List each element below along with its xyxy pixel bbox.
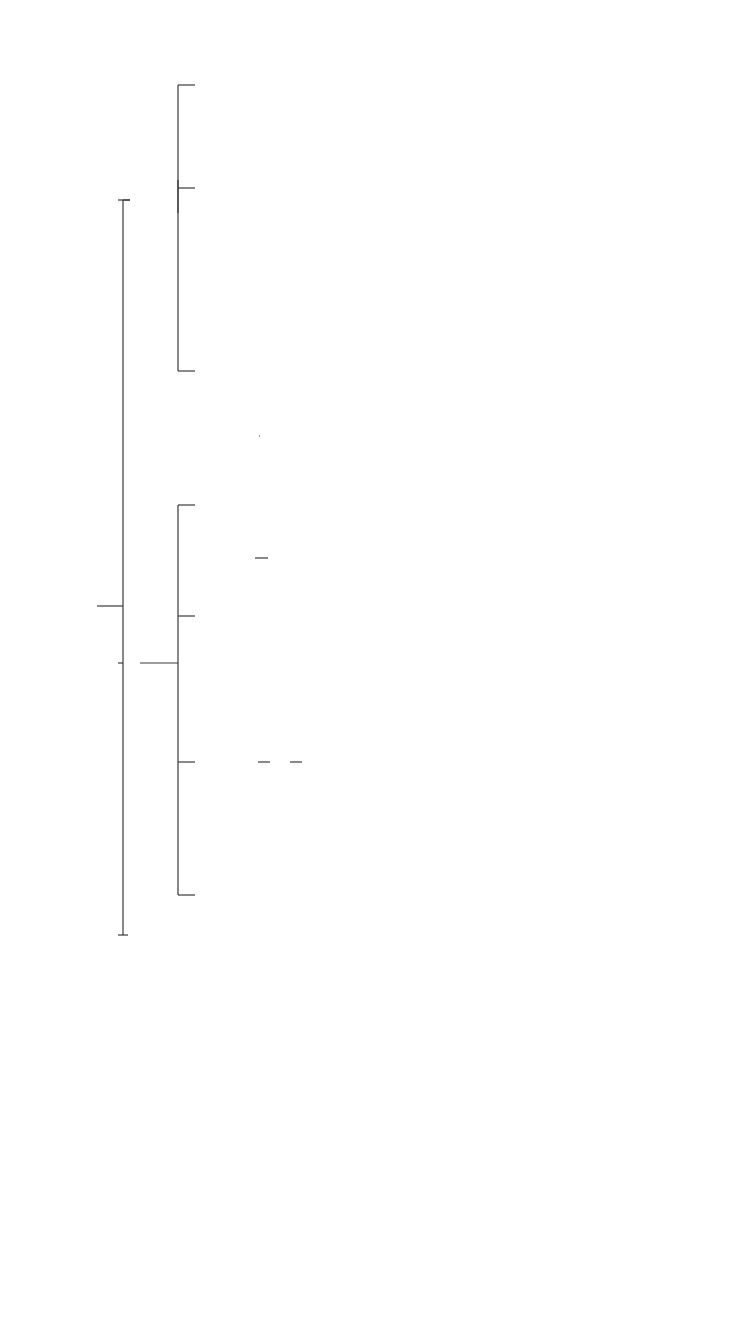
tree-connector-lines: [0, 0, 736, 1328]
family-tree-diagram: [0, 0, 736, 1328]
